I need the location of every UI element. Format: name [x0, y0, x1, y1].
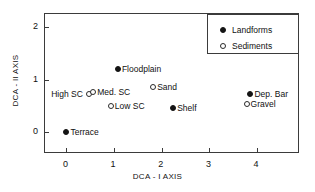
data-point-label: Terrace	[70, 128, 98, 137]
y-tick-mark	[45, 132, 49, 133]
x-tick-label: 2	[151, 159, 171, 169]
x-tick-label: 4	[246, 159, 266, 169]
y-tick-label: 2	[24, 21, 38, 31]
data-point-label: Gravel	[251, 100, 276, 109]
scatter-plot-figure: TerraceFloodplainShelfDep. BarHigh SCMed…	[0, 0, 315, 192]
legend-box: LandformsSediments	[207, 14, 299, 54]
x-tick-mark	[162, 148, 163, 152]
data-point-marker[interactable]	[115, 66, 121, 72]
x-tick-mark	[66, 148, 67, 152]
x-tick-label: 3	[198, 159, 218, 169]
data-point-marker[interactable]	[90, 89, 96, 95]
data-point-marker[interactable]	[247, 91, 253, 97]
data-point-label: Floodplain	[122, 65, 161, 74]
legend-item-label: Sediments	[232, 42, 272, 51]
data-point-marker[interactable]	[170, 105, 176, 111]
y-tick-mark	[45, 80, 49, 81]
y-tick-label: 1	[24, 74, 38, 84]
data-point-marker[interactable]	[63, 129, 69, 135]
filled-circle-icon	[220, 27, 226, 33]
x-tick-label: 0	[55, 159, 75, 169]
data-point-label: Sand	[157, 83, 177, 92]
data-point-marker[interactable]	[108, 103, 114, 109]
data-point-label: Dep. Bar	[254, 90, 288, 99]
y-tick-mark	[45, 27, 49, 28]
legend-item-landforms[interactable]: Landforms	[220, 24, 272, 36]
data-point-label: High SC	[51, 90, 83, 99]
x-tick-label: 1	[103, 159, 123, 169]
y-tick-label: 0	[24, 126, 38, 136]
data-point-marker[interactable]	[244, 101, 250, 107]
data-point-label: Shelf	[177, 104, 196, 113]
y-axis-title: DCA - II AXIS	[11, 21, 20, 141]
data-point-marker[interactable]	[150, 84, 156, 90]
data-point-label: Med. SC	[97, 88, 130, 97]
x-tick-mark	[114, 148, 115, 152]
open-circle-icon	[220, 43, 226, 49]
x-tick-mark	[209, 148, 210, 152]
legend-item-sediments[interactable]: Sediments	[220, 40, 272, 52]
data-point-label: Low SC	[115, 102, 145, 111]
x-tick-mark	[257, 148, 258, 152]
legend-item-label: Landforms	[232, 26, 272, 35]
x-axis-title: DCA - I AXIS	[0, 172, 315, 181]
